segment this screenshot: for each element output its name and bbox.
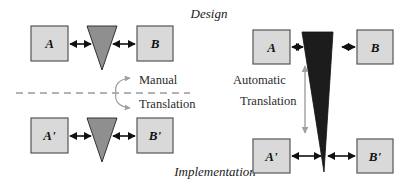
component-label-a: A [44,36,54,51]
component-label-b: B [150,36,160,51]
implementation-title: Implementation [173,164,256,179]
manual-label: Manual [139,73,178,87]
design-title: Design [190,6,228,21]
component-label-a-prime: A' [42,128,56,143]
manual-connector-triangle [87,118,117,162]
manual-connector-triangle [87,26,117,70]
left-panel-manual: A B Manual Translation A' B' [16,26,196,162]
translation-label: Translation [139,97,196,111]
automatic-label: Automatic [233,73,286,87]
component-label-b: B [370,40,380,55]
automatic-connector-wedge [302,32,333,172]
left-design-row: A B [31,26,173,70]
component-label-b-prime: B' [148,128,162,143]
manual-vs-automatic-translation-diagram: Design Implementation A B Manual Transla… [0,0,412,184]
curved-arrow-up-icon [116,78,130,93]
left-implementation-row: A' B' [31,118,173,162]
component-label-a-prime: A' [264,149,278,164]
component-label-b-prime: B' [368,149,382,164]
component-label-a: A [266,40,276,55]
right-panel-automatic: A B Automatic Translation A' B' [233,30,393,173]
translation-label: Translation [240,94,297,108]
curved-arrow-down-icon [116,93,130,108]
